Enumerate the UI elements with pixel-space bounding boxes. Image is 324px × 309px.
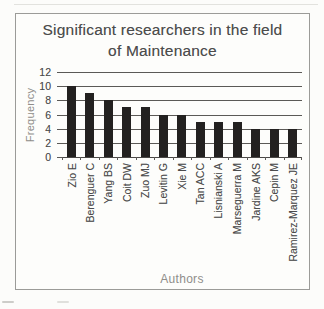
x-tick-mark [117, 157, 118, 160]
bar [177, 115, 186, 158]
bar [122, 107, 131, 157]
x-category-label-slot: Coit DW [117, 163, 135, 275]
bar-slot [117, 72, 135, 157]
x-category-label-slot: Yang BS [99, 163, 117, 275]
bar-slot [99, 72, 117, 157]
bar [85, 93, 94, 157]
chart-title: Significant researchers in the field of … [16, 19, 309, 61]
x-category-label-slot: Zio E [62, 163, 80, 275]
bar-slot [136, 72, 154, 157]
y-tick-label: 8 [45, 95, 51, 105]
x-category-label: Ramirez-Marquez JE [288, 163, 298, 262]
x-tick-mark [154, 157, 155, 160]
scan-artifact-top-line [14, 4, 318, 5]
bar-slot [210, 72, 228, 157]
x-category-label-slot: Ramirez-Marquez JE [284, 163, 302, 275]
x-category-label-slot: Marseguerra M [228, 163, 246, 275]
x-axis-labels: Zio EBerenguer CYang BSCoit DWZuo MJLevi… [62, 163, 302, 275]
chart-title-line-1: Significant researchers in the field [16, 19, 309, 40]
bar [251, 129, 260, 157]
x-tick-mark [62, 157, 63, 160]
x-category-label: Levitin G [159, 163, 169, 204]
y-tick-label: 6 [45, 110, 51, 120]
bar [270, 129, 279, 157]
x-tick-mark [210, 157, 211, 160]
y-axis-title: Frequency [24, 87, 36, 142]
x-category-label: Cepin M [269, 163, 279, 202]
scan-artifact-smudge-2 [57, 301, 69, 303]
chart-title-line-2: of Maintenance [16, 40, 309, 61]
x-tick-mark [265, 157, 266, 160]
x-tick-mark [191, 157, 192, 160]
x-category-label-slot: Zuo MJ [136, 163, 154, 275]
bar-slot [284, 72, 302, 157]
y-tick-label: 12 [39, 67, 51, 77]
y-tick-label: 0 [45, 152, 51, 162]
x-tick-mark [284, 157, 285, 160]
bar-slot [228, 72, 246, 157]
bar [233, 122, 242, 157]
scanned-figure-page: Significant researchers in the field of … [0, 0, 324, 309]
bar-slot [80, 72, 98, 157]
bar [141, 107, 150, 157]
x-category-label-slot: Jardine AKS [247, 163, 265, 275]
bar [67, 86, 76, 157]
x-category-label-slot: Xie M [173, 163, 191, 275]
bar-slot [191, 72, 209, 157]
x-category-label: Yang BS [103, 163, 113, 204]
bar-slot [265, 72, 283, 157]
chart-frame: Significant researchers in the field of … [15, 13, 310, 290]
y-tick-label: 10 [39, 81, 51, 91]
x-category-label-slot: Berenguer C [80, 163, 98, 275]
scan-artifact-smudge-1 [2, 301, 14, 303]
bar [214, 122, 223, 157]
y-tick-label: 2 [45, 138, 51, 148]
x-category-label-slot: Cepin M [265, 163, 283, 275]
x-axis-title: Authors [62, 272, 302, 286]
x-tick-mark [80, 157, 81, 160]
plot-area: 024681012 [62, 72, 302, 157]
x-category-label: Zio E [66, 163, 76, 188]
x-tick-mark [301, 157, 302, 160]
x-category-label: Coit DW [122, 163, 132, 202]
x-tick-mark [99, 157, 100, 160]
x-category-label: Tan ACC [195, 163, 205, 204]
x-category-label-slot: Lisnianski A [210, 163, 228, 275]
bar-slot [173, 72, 191, 157]
bar-slot [154, 72, 172, 157]
bar [196, 122, 205, 157]
x-category-label: Xie M [177, 163, 187, 190]
x-tick-mark [136, 157, 137, 160]
x-category-label: Lisnianski A [214, 163, 224, 218]
x-category-label-slot: Tan ACC [191, 163, 209, 275]
x-category-label-slot: Levitin G [154, 163, 172, 275]
x-category-label: Jardine AKS [251, 163, 261, 221]
bar [159, 115, 168, 158]
bar [104, 100, 113, 157]
y-tick-label: 4 [45, 124, 51, 134]
x-tick-mark [228, 157, 229, 160]
x-category-label: Berenguer C [85, 163, 95, 223]
x-tick-mark [173, 157, 174, 160]
x-category-label: Zuo MJ [140, 163, 150, 198]
x-category-label: Marseguerra M [232, 163, 242, 234]
bar-slot [62, 72, 80, 157]
bar-slot [247, 72, 265, 157]
bar [288, 129, 297, 157]
x-tick-mark [247, 157, 248, 160]
